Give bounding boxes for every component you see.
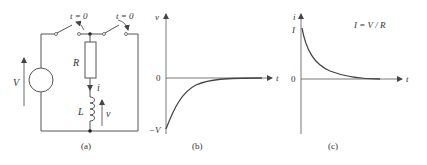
graph-c-y-label: i	[293, 12, 296, 22]
voltage-source	[29, 68, 53, 92]
caption-c: (c)	[328, 141, 338, 151]
resistor	[85, 42, 96, 78]
graph-b-min-label: −V	[149, 125, 162, 135]
voltage-label: v	[106, 108, 111, 119]
current-label: i	[97, 82, 100, 93]
switch-right-contact-b	[125, 33, 128, 36]
graph-b-x-label: t	[276, 73, 279, 83]
graph-c-zero-label: 0	[291, 74, 296, 84]
switch-right-label: t = 0	[116, 11, 134, 21]
circuit-diagram: t = 0 t = 0 R i L v V (a)	[13, 11, 138, 151]
caption-a: (a)	[81, 141, 91, 151]
graph-c-equation: I = V / R	[353, 20, 386, 30]
switch-right-arrow-icon	[118, 20, 128, 30]
inductor	[90, 97, 95, 131]
junction-bottom	[88, 129, 92, 133]
graph-c: i t 0 I I = V / R (c)	[291, 12, 409, 151]
graph-b-curve	[166, 78, 262, 129]
caption-b: (b)	[192, 141, 203, 151]
switch-left-label: t = 0	[70, 11, 88, 21]
graph-c-curve	[302, 28, 380, 79]
switch-left-blade	[57, 25, 72, 33]
current-arrow-icon	[87, 85, 93, 91]
graph-c-x-label: t	[406, 74, 409, 84]
graph-b: v t 0 −V (b)	[149, 12, 279, 151]
switch-left-contact-b	[78, 33, 81, 36]
graph-b-y-label: v	[155, 12, 159, 22]
graph-c-max-label: I	[291, 25, 296, 35]
graph-b-zero-label: 0	[156, 73, 161, 83]
switch-left-arrow-icon	[76, 22, 84, 30]
resistor-label: R	[72, 57, 79, 68]
inductor-label: L	[77, 106, 84, 117]
source-label: V	[13, 77, 21, 88]
switch-right-blade	[105, 25, 119, 33]
